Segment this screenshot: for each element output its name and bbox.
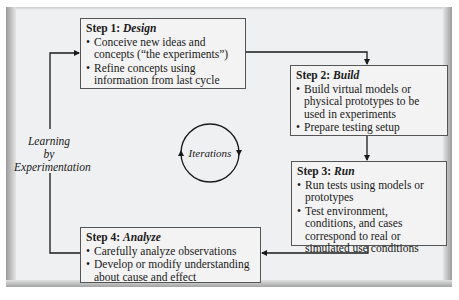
step-3-title: Step 3: Run — [297, 165, 440, 178]
step-1-title: Step 1: Design — [86, 22, 239, 35]
step-2-bullet: Build virtual models or physical prototy… — [296, 83, 441, 121]
circle-arrow-right-icon — [236, 150, 242, 156]
step-3-run-box: Step 3: Run Run tests using models or pr… — [291, 161, 447, 246]
side-label-line1: Learning — [14, 135, 84, 148]
step-2-title: Step 2: Build — [296, 69, 441, 82]
step-3-bullet: Test environment, conditions, and cases … — [297, 205, 440, 255]
arrow-step1-to-step2 — [246, 52, 367, 64]
step-1-bullet: Conceive new ideas and concepts (“the ex… — [86, 36, 239, 61]
side-label-line2: by — [14, 148, 84, 161]
step-4-bullet: Develop or modify understanding about ca… — [86, 258, 254, 283]
side-label-line3: Experimentation — [14, 161, 84, 174]
step-4-bullet: Carefully analyze observations — [86, 245, 254, 258]
arrow-step4-to-step1-upper — [50, 53, 79, 129]
step-4-analyze-box: Step 4: Analyze Carefully analyze observ… — [80, 227, 261, 283]
learning-by-experimentation-label: Learning by Experimentation — [14, 135, 84, 174]
step-1-bullet: Refine concepts using information from l… — [86, 62, 239, 87]
step-2-build-box: Step 2: Build Build virtual models or ph… — [290, 65, 448, 136]
step-1-design-box: Step 1: Design Conceive new ideas and co… — [80, 18, 246, 89]
step-4-title: Step 4: Analyze — [86, 231, 254, 244]
step-2-bullet: Prepare testing setup — [296, 121, 441, 134]
iterations-label: Iterations — [184, 147, 236, 159]
step-3-bullet: Run tests using models or prototypes — [297, 179, 440, 204]
arrow-step4-to-step1-lower — [50, 173, 80, 253]
